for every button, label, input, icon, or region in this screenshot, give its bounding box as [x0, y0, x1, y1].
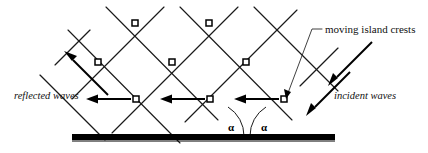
seabed-bar	[72, 134, 335, 140]
incident-crest-lines	[40, 7, 338, 143]
incident-direction-arrows	[306, 42, 372, 116]
moving-island-crests-label: moving island crests	[325, 23, 415, 35]
wave-refraction-diagram: reflected waves incident waves moving is…	[0, 0, 428, 153]
incident-crest-line	[40, 75, 105, 140]
crest-label-leader	[284, 29, 322, 99]
incident-crest-line	[254, 7, 338, 91]
reflected-crest-line	[112, 7, 238, 133]
incident-crest-line	[106, 7, 218, 120]
propagation-arrow-head	[86, 95, 98, 104]
reflected-crest-lines	[55, 7, 338, 133]
horizontal-propagation-arrows	[86, 95, 279, 104]
crest-node	[169, 59, 175, 65]
angle-label-right: α	[261, 121, 268, 133]
angle-label-left: α	[228, 121, 235, 133]
reflected-waves-label: reflected waves	[14, 90, 79, 101]
crest-node	[95, 59, 101, 65]
incident-crest-line	[180, 7, 292, 120]
seabed-boundary	[72, 134, 335, 141]
reflected-arrow-head	[64, 51, 77, 61]
crest-node	[207, 96, 213, 102]
crest-node	[133, 96, 139, 102]
incident-arrow-shaft-upper	[337, 42, 372, 77]
crest-nodes	[95, 20, 287, 102]
incident-arrow-head-lower	[306, 103, 316, 116]
incident-arrow-head-upper	[328, 73, 338, 86]
diagram-canvas: reflected waves incident waves moving is…	[0, 0, 428, 153]
crest-node	[132, 20, 138, 26]
propagation-arrow-head	[234, 95, 246, 104]
reflected-crest-line	[72, 7, 164, 99]
leader-line	[288, 29, 322, 93]
incident-waves-label: incident waves	[334, 90, 396, 101]
propagation-arrow-head	[160, 95, 172, 104]
reflected-direction-arrow	[64, 51, 108, 95]
crest-node	[206, 20, 212, 26]
crest-node	[243, 59, 249, 65]
reflected-crest-line	[185, 10, 297, 122]
